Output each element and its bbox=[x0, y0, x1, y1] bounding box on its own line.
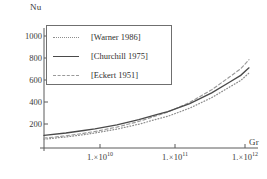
legend-label-eckert: [Eckert 1951] bbox=[91, 70, 138, 80]
legend-swatch-dotted-icon bbox=[53, 32, 79, 42]
legend-label-warner: [Warner 1986] bbox=[91, 32, 141, 42]
legend-entry-churchill: [Churchill 1975] bbox=[47, 46, 173, 66]
legend-entry-eckert: [Eckert 1951] bbox=[47, 65, 173, 85]
legend-label-churchill: [Churchill 1975] bbox=[91, 51, 148, 61]
legend-swatch-dashed-icon bbox=[53, 70, 79, 80]
chart-figure: Nu Gr 1000 800 600 400 200 1.×1010 1.×10… bbox=[0, 0, 267, 179]
legend-swatch-solid-icon bbox=[53, 51, 79, 61]
legend-entry-warner: [Warner 1986] bbox=[47, 27, 173, 47]
x-tick-marks bbox=[100, 144, 245, 148]
legend: [Warner 1986] [Churchill 1975] [Eckert 1… bbox=[46, 25, 172, 85]
